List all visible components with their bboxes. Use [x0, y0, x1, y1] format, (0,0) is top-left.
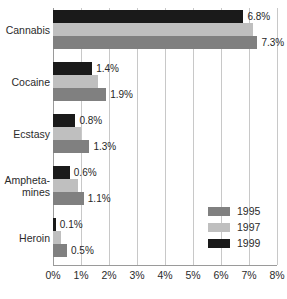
bar-1999-ecstasy	[53, 114, 75, 127]
legend-item-1995[interactable]: 1995	[208, 204, 274, 218]
x-tick-2pct: 2%	[94, 269, 124, 281]
bar-1995-amphetamines	[53, 192, 84, 205]
x-axis-tick-labels: 0%1%2%3%4%5%6%7%8%	[0, 269, 287, 287]
bar-1995-cocaine	[53, 88, 106, 101]
category-label-ecstasy: Ecstasy	[0, 128, 50, 140]
bar-1997-cocaine	[53, 75, 98, 88]
bar-1997-amphetamines	[53, 179, 78, 192]
legend-label-1999: 1999	[237, 237, 260, 249]
bar-chart: CannabisCocaineEcstasyAmpheta- minesHero…	[0, 0, 287, 299]
bar-value-label: 0.1%	[60, 218, 83, 231]
x-tick-1pct: 1%	[66, 269, 96, 281]
x-tick-7pct: 7%	[234, 269, 264, 281]
y-axis-category-labels: CannabisCocaineEcstasyAmpheta- minesHero…	[0, 8, 50, 265]
bar-value-label: 1.4%	[96, 62, 119, 75]
bar-1999-amphetamines	[53, 166, 70, 179]
bar-value-label: 1.1%	[88, 192, 111, 205]
legend-label-1995: 1995	[237, 205, 260, 217]
bar-1997-cannabis	[53, 23, 253, 36]
bar-1999-cocaine	[53, 62, 92, 75]
bar-1999-heroin	[53, 218, 56, 231]
legend-item-1999[interactable]: 1999	[208, 236, 274, 250]
bar-value-label: 1.3%	[93, 140, 116, 153]
category-label-cannabis: Cannabis	[0, 24, 50, 36]
bar-value-label: 0.6%	[74, 166, 97, 179]
x-tick-6pct: 6%	[206, 269, 236, 281]
legend-swatch-1997	[208, 223, 230, 232]
chart-legend: 199519971999	[208, 204, 274, 252]
bar-1997-heroin	[53, 231, 61, 244]
x-tick-0pct: 0%	[38, 269, 68, 281]
bar-value-label: 6.8%	[247, 10, 270, 23]
category-label-heroin: Heroin	[0, 232, 50, 244]
bar-1995-cannabis	[53, 36, 257, 49]
bar-1995-heroin	[53, 244, 67, 257]
bar-value-label: 7.3%	[261, 36, 284, 49]
category-label-amphetamines: Ampheta- mines	[0, 174, 50, 198]
bar-1997-ecstasy	[53, 127, 81, 140]
bar-value-label: 0.5%	[71, 244, 94, 257]
x-axis-line	[53, 265, 277, 266]
bar-1995-ecstasy	[53, 140, 89, 153]
x-tick-5pct: 5%	[178, 269, 208, 281]
bar-value-label: 0.8%	[79, 114, 102, 127]
legend-item-1997[interactable]: 1997	[208, 220, 274, 234]
bar-value-label: 1.9%	[110, 88, 133, 101]
category-label-cocaine: Cocaine	[0, 76, 50, 88]
legend-label-1997: 1997	[237, 221, 260, 233]
bar-1999-cannabis	[53, 10, 243, 23]
x-tick-4pct: 4%	[150, 269, 180, 281]
x-tick-3pct: 3%	[122, 269, 152, 281]
x-tick-8pct: 8%	[262, 269, 287, 281]
legend-swatch-1995	[208, 207, 230, 216]
legend-swatch-1999	[208, 239, 230, 248]
